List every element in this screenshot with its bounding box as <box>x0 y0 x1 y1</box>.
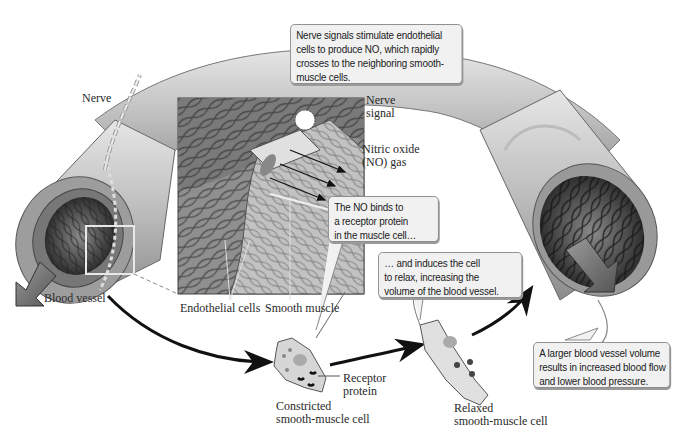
callout-line: results in increased blood flow <box>539 360 664 374</box>
inset-guide-line <box>134 274 178 294</box>
label-line: protein <box>343 385 386 398</box>
callout-line: and lower blood pressure. <box>539 374 664 388</box>
diagram-canvas: Nerve signals stimulate endothelial cell… <box>0 0 689 440</box>
label-line: signal <box>366 107 395 120</box>
callout-line: Nerve signals stimulate endothelial <box>296 28 456 42</box>
callout-line: to relax, increasing the <box>384 270 516 284</box>
label-endothelial-cells: Endothelial cells <box>180 302 260 315</box>
label-nitric-oxide: Nitric oxide (NO) gas <box>362 143 420 169</box>
callout-line: The NO binds to <box>334 200 433 214</box>
label-nerve: Nerve <box>82 92 111 105</box>
label-constricted-cell: Constricted smooth-muscle cell <box>276 400 370 426</box>
callout-induces-relax: … and induces the cell to relax, increas… <box>378 252 522 298</box>
label-nerve-signal: Nerve signal <box>366 94 395 120</box>
label-relaxed-cell: Relaxed smooth-muscle cell <box>454 402 548 428</box>
label-smooth-muscle: Smooth muscle <box>265 302 339 315</box>
label-receptor-protein: Receptor protein <box>343 372 386 398</box>
callout-line: a receptor protein <box>334 214 433 228</box>
callout-nerve-signals: Nerve signals stimulate endothelial cell… <box>290 24 462 84</box>
relaxed-cell <box>413 290 488 405</box>
callout-line: crosses to the neighboring smooth- <box>296 56 456 70</box>
callout-line: … and induces the cell <box>384 256 516 270</box>
callout-larger-volume: A larger blood vessel volume results in … <box>533 342 670 388</box>
callout-no-binds: The NO binds to a receptor protein in th… <box>328 196 439 242</box>
callout-line: A larger blood vessel volume <box>539 346 664 360</box>
label-blood-vessel: Blood vessel <box>44 292 106 305</box>
label-line: smooth-muscle cell <box>454 415 548 428</box>
callout-line: in the muscle cell… <box>334 228 433 242</box>
label-line: smooth-muscle cell <box>276 413 370 426</box>
callout-line: cells to produce NO, which rapidly <box>296 42 456 56</box>
label-line: (NO) gas <box>362 156 420 169</box>
callout-line: volume of the blood vessel. <box>384 284 516 298</box>
arrow-constricted-to-relaxed <box>330 345 420 365</box>
arrow-to-larger-volume <box>598 300 607 345</box>
callout-line: muscle cells. <box>296 70 456 84</box>
